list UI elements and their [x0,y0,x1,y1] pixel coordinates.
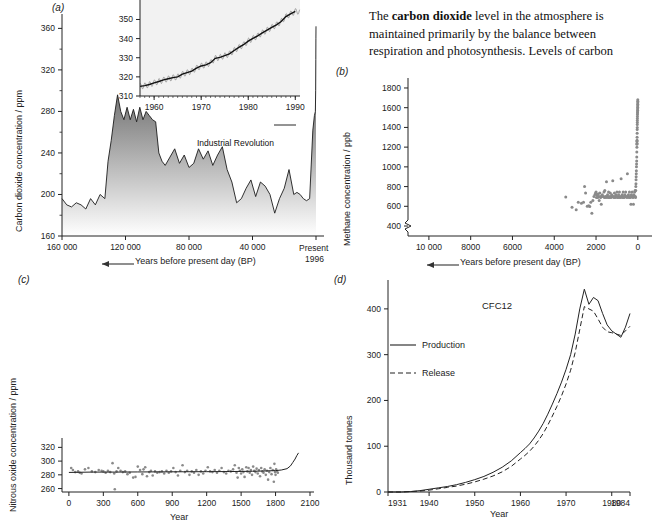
svg-text:0: 0 [376,487,381,497]
panel-d-xlabel: Year [490,509,508,519]
panel-a-plot: 160200240280320360160 000120 00080 00040… [0,0,340,280]
panel-a-xlabel: Years before present day (BP) [135,256,256,266]
svg-text:120 000: 120 000 [110,242,141,252]
panel-c-ylabel: Nitrous oxide concentration / ppm [8,392,19,512]
panel-b-ylabel: Methane concentration / ppb [342,132,352,246]
svg-text:320: 320 [119,72,133,82]
svg-text:200: 200 [41,189,55,199]
svg-text:300: 300 [41,456,55,466]
paragraph-bold-term: carbon dioxide [392,9,472,23]
svg-text:600: 600 [131,498,145,508]
svg-text:1500: 1500 [232,498,251,508]
panel-b-label: (b) [336,66,348,77]
legend-label-production: Production [422,340,465,350]
legend-label-release: Release [422,368,455,378]
panel-d-cfc12: (d) Thousand tonnes 01002003004001931194… [330,270,658,529]
svg-text:240: 240 [41,148,55,158]
svg-text:1200: 1200 [197,498,216,508]
svg-text:0: 0 [67,498,72,508]
svg-text:1960: 1960 [511,498,530,508]
panel-c-xlabel: Year [170,512,188,522]
panel-b-plot: 4006008001000120014001600180010 00080006… [330,60,658,280]
svg-text:260: 260 [41,484,55,494]
svg-text:1800: 1800 [266,498,285,508]
svg-text:2000: 2000 [587,242,606,252]
panel-d-series-title: CFC12 [482,300,512,311]
svg-text:1000: 1000 [382,162,401,172]
svg-text:1970: 1970 [557,498,576,508]
svg-text:400: 400 [387,221,401,231]
panel-b-xlabel: Years before present day (BP) [460,257,581,267]
svg-text:400: 400 [367,304,381,314]
svg-text:160: 160 [41,231,55,241]
svg-text:1200: 1200 [382,142,401,152]
svg-text:320: 320 [41,65,55,75]
panel-a-present-label-2: 1996 [305,254,324,264]
panel-a-xlabel-arrow [90,258,150,270]
svg-text:6000: 6000 [503,242,522,252]
svg-text:1970: 1970 [192,102,211,112]
panel-c-plot: 26028030032003006009001200150018002100 [0,270,340,529]
svg-text:160 000: 160 000 [47,242,78,252]
svg-text:340: 340 [119,34,133,44]
panel-a-ylabel: Carbon dioxide concentration / ppm [14,90,24,232]
panel-d-ylabel: Thousand tonnes [344,415,354,485]
svg-text:310: 310 [119,91,133,101]
svg-text:280: 280 [41,470,55,480]
svg-text:800: 800 [387,182,401,192]
svg-text:330: 330 [119,53,133,63]
svg-text:200: 200 [367,395,381,405]
svg-text:8000: 8000 [461,242,480,252]
svg-text:1931: 1931 [388,498,407,508]
svg-text:0: 0 [635,242,640,252]
panel-a-label: (a) [52,2,64,13]
paragraph-pre: The [369,9,392,23]
panel-c-nitrous-oxide: (c) Nitrous oxide concentration / ppm 26… [0,270,340,529]
svg-text:360: 360 [41,23,55,33]
svg-text:1990: 1990 [286,102,305,112]
svg-text:900: 900 [165,498,179,508]
svg-text:1800: 1800 [382,83,401,93]
svg-text:1600: 1600 [382,103,401,113]
svg-text:2100: 2100 [301,498,320,508]
industrial-revolution-annotation: Industrial Revolution [197,138,274,148]
svg-text:280: 280 [41,106,55,116]
svg-text:300: 300 [367,350,381,360]
panel-a-co2: (a) Carbon dioxide concentration / ppm 1… [0,0,340,280]
svg-text:1400: 1400 [382,122,401,132]
svg-text:80 000: 80 000 [176,242,202,252]
svg-text:40 000: 40 000 [240,242,266,252]
svg-text:4000: 4000 [545,242,564,252]
svg-text:10 000: 10 000 [416,242,442,252]
svg-text:1980: 1980 [239,102,258,112]
panel-c-ylabel-text: Nitrous oxide concentration / ppm [8,378,18,512]
panel-b-methane: (b) Methane concentration / ppb 40060080… [330,60,658,280]
article-paragraph: The carbon dioxide level in the atmosphe… [369,8,651,61]
svg-text:1940: 1940 [420,498,439,508]
svg-text:100: 100 [367,441,381,451]
svg-text:1984: 1984 [611,498,630,508]
svg-text:350: 350 [119,14,133,24]
panel-a-present-label-1: Present [299,243,328,253]
panel-d-label: (d) [334,274,346,285]
svg-text:600: 600 [387,201,401,211]
svg-text:300: 300 [96,498,110,508]
svg-text:1950: 1950 [465,498,484,508]
svg-text:1960: 1960 [145,102,164,112]
panel-c-label: (c) [18,274,30,285]
svg-text:320: 320 [41,442,55,452]
